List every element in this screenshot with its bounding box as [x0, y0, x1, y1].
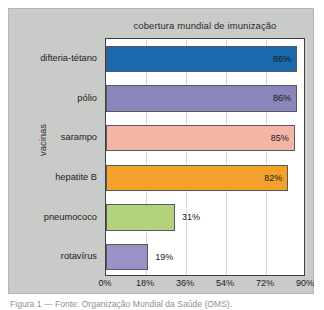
x-tick-label: 54%	[216, 278, 234, 288]
category-label: rotavírus	[61, 251, 97, 261]
bar-row[interactable]: 86%	[106, 85, 304, 111]
category-label: difteria-tétano	[40, 53, 97, 63]
y-axis-tick-labels: difteria-tétanopóliosarampohepatite Bpne…	[28, 38, 101, 276]
figure-caption: Figura 1 — Fonte: Organização Mundial da…	[10, 299, 320, 309]
bar-row[interactable]: 82%	[106, 165, 304, 191]
chart-title: cobertura mundial de imunização	[105, 20, 305, 31]
bar-value-label: 85%	[271, 133, 289, 143]
x-tick-label: 36%	[176, 278, 194, 288]
bar-row[interactable]: 31%	[106, 204, 304, 230]
bar-row[interactable]: 86%	[106, 46, 304, 72]
category-label: pólio	[77, 93, 97, 103]
bar[interactable]: 86%	[106, 46, 297, 72]
x-tick-label: 72%	[256, 278, 274, 288]
bar-value-label: 86%	[273, 54, 291, 64]
x-tick-label: 0%	[98, 278, 111, 288]
bar-value-label: 19%	[155, 252, 173, 262]
bar-row[interactable]: 85%	[106, 125, 304, 151]
bar-row[interactable]: 19%	[106, 244, 304, 270]
bar-value-label: 31%	[182, 212, 200, 222]
x-tick-label: 18%	[136, 278, 154, 288]
category-label: sarampo	[61, 132, 97, 142]
bar[interactable]: 82%	[106, 165, 288, 191]
plot-area: 86%86%85%82%31%19%	[105, 38, 305, 276]
category-label: pneumococo	[44, 212, 97, 222]
bar-series: 86%86%85%82%31%19%	[106, 39, 304, 275]
bar[interactable]: 85%	[106, 125, 295, 151]
category-label: hepatite B	[55, 172, 97, 182]
bar[interactable]: 86%	[106, 85, 297, 111]
x-axis-tick-labels: 0%18%36%54%72%90%	[105, 278, 305, 292]
bar[interactable]	[106, 244, 148, 270]
figure-container: cobertura mundial de imunização vacinas …	[0, 0, 324, 310]
x-tick-label: 90%	[296, 278, 314, 288]
bar-value-label: 82%	[264, 173, 282, 183]
bar[interactable]	[106, 204, 175, 230]
gridline	[306, 39, 307, 275]
bar-value-label: 86%	[273, 93, 291, 103]
